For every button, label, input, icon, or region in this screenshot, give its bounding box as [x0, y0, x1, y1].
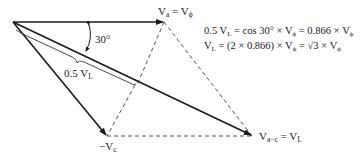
label-va-minus-vc: Va−c = VL	[259, 130, 302, 146]
label-half-vl-main: 0.5 V	[64, 67, 88, 79]
label-half-vl: 0.5 VL	[64, 67, 93, 83]
eq1-part1: 0.5 V	[204, 25, 227, 36]
label-va-eq: = V	[169, 5, 188, 17]
eq1-part3: = 0.866 × V	[296, 25, 350, 36]
label-vac-eq-sub: L	[297, 135, 302, 144]
label-minus-vc-sub: c	[113, 145, 116, 154]
label-va: Va = Vϕ	[158, 5, 193, 21]
label-minus-vc: −Vc	[99, 140, 117, 156]
label-vac-main: V	[259, 130, 267, 142]
label-vac-sub: a−c	[267, 135, 278, 144]
eq2-part1: V	[204, 40, 212, 51]
eq2-part3: = √3 × V	[296, 40, 337, 51]
eq2-part3-sub: ϕ	[337, 45, 341, 53]
label-minus-vc-main: −V	[99, 140, 113, 152]
eq1-part2: = cos 30° × V	[231, 25, 292, 36]
label-va-main: V	[158, 5, 166, 17]
label-angle-30: 30°	[95, 33, 110, 45]
label-va-eq-sub: ϕ	[189, 10, 193, 19]
eq2-part2: = (2 × 0.866) × V	[216, 40, 293, 51]
label-half-vl-sub: L	[88, 72, 93, 81]
eq1-part3-sub: ϕ	[350, 30, 354, 38]
dashed-line-perp-lower	[107, 85, 135, 136]
label-vac-eq: = V	[278, 130, 297, 142]
angle-arc-30	[86, 25, 90, 51]
dashed-line-perpendicular	[137, 22, 164, 85]
equation-line-2: VL = (2 × 0.866) × Vϕ = √3 × Vϕ	[204, 39, 341, 56]
